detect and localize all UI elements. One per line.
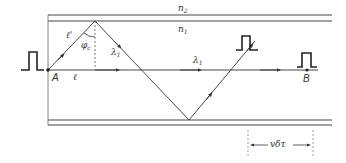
- oblique-length-label: ℓ': [66, 31, 72, 40]
- axial-output-pulse-icon: [297, 53, 317, 67]
- cladding-index-label: n2: [178, 4, 188, 14]
- point-a-dot: [46, 68, 50, 72]
- spread-label: vδτ: [270, 140, 285, 149]
- input-pulse-icon: [21, 52, 44, 70]
- critical-angle-label: φc: [81, 41, 91, 51]
- core-index-label: n1: [178, 25, 188, 35]
- axial-wavelength-label: λ1: [193, 56, 203, 66]
- critical-angle-arc: [84, 33, 95, 37]
- oblique-wavelength-label: λ1: [111, 48, 121, 58]
- point-b-label: B: [303, 74, 310, 84]
- oblique-output-pulse-icon: [236, 36, 258, 50]
- axial-length-label: ℓ: [73, 73, 77, 82]
- oblique-ray: [48, 21, 255, 120]
- fiber-diagram: n2 n1 ℓ' φc λ1 λ1 A ℓ B vδτ: [0, 0, 346, 163]
- point-b-dot: [305, 68, 308, 71]
- point-a-label: A: [52, 73, 59, 83]
